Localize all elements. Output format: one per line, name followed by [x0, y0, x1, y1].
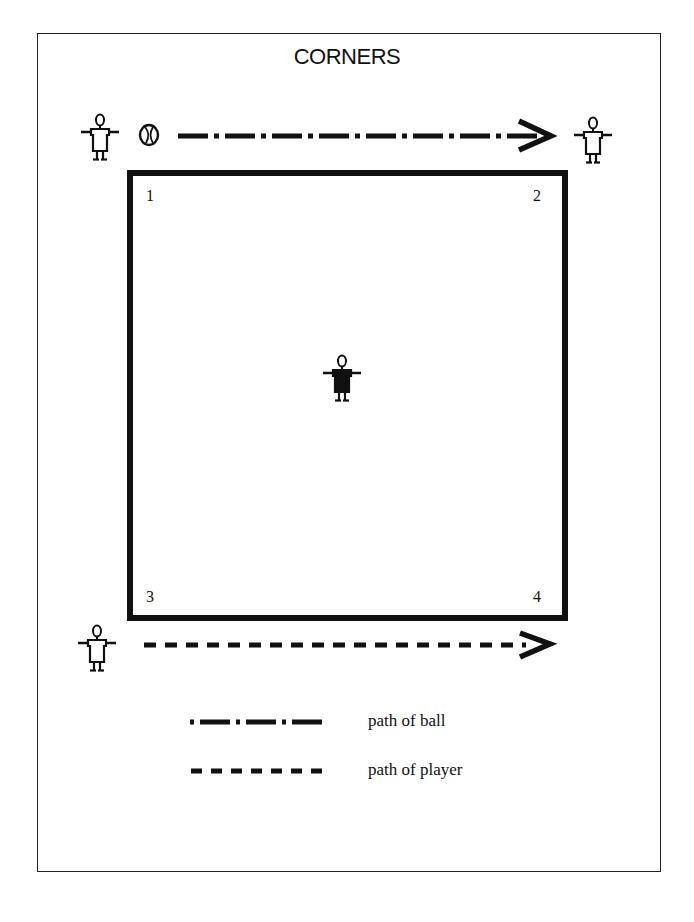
legend-label-player: path of player [368, 760, 462, 780]
player-path-line [144, 633, 550, 657]
diagram-drawing [0, 0, 694, 922]
player-outline-icon [574, 118, 612, 163]
legend-label-ball: path of ball [368, 711, 445, 731]
player-outline-icon [81, 115, 119, 160]
ball-path-line [178, 121, 551, 150]
player-outline-icon [78, 626, 116, 671]
ball-icon [140, 125, 158, 145]
player-filled-icon [323, 356, 361, 401]
